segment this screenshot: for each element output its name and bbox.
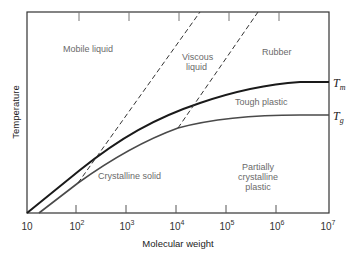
- svg-text:106: 106: [269, 219, 284, 232]
- top-axis-ticks: [79, 12, 279, 21]
- region-viscous-liquid-2: liquid: [186, 62, 207, 72]
- region-crystalline-solid: Crystalline solid: [98, 171, 161, 181]
- svg-text:103: 103: [119, 219, 134, 232]
- region-partially-crystalline-2: crystalline: [238, 172, 278, 182]
- svg-text:107: 107: [320, 219, 335, 232]
- region-mobile-liquid: Mobile liquid: [63, 44, 113, 54]
- svg-text:10: 10: [21, 221, 33, 232]
- x-axis-ticks: [76, 205, 276, 213]
- region-partially-crystalline-3: plastic: [245, 182, 271, 192]
- tm-label: Tm: [333, 76, 346, 92]
- tg-curve: [39, 115, 329, 213]
- tg-label: Tg: [333, 109, 344, 125]
- region-viscous-liquid: Viscous: [182, 52, 214, 62]
- region-rubber: Rubber: [262, 47, 292, 57]
- svg-text:104: 104: [169, 219, 184, 232]
- x-tick-labels: 10 102 103 104 105 106 107: [21, 219, 335, 232]
- svg-text:105: 105: [219, 219, 234, 232]
- phase-diagram: Mobile liquid Viscous liquid Rubber Toug…: [0, 0, 355, 255]
- region-partially-crystalline: Partially: [242, 162, 275, 172]
- region-tough-plastic: Tough plastic: [235, 97, 288, 107]
- y-axis-label: Temperature: [10, 85, 21, 138]
- svg-text:102: 102: [69, 219, 84, 232]
- x-axis-label: Molecular weight: [142, 238, 214, 249]
